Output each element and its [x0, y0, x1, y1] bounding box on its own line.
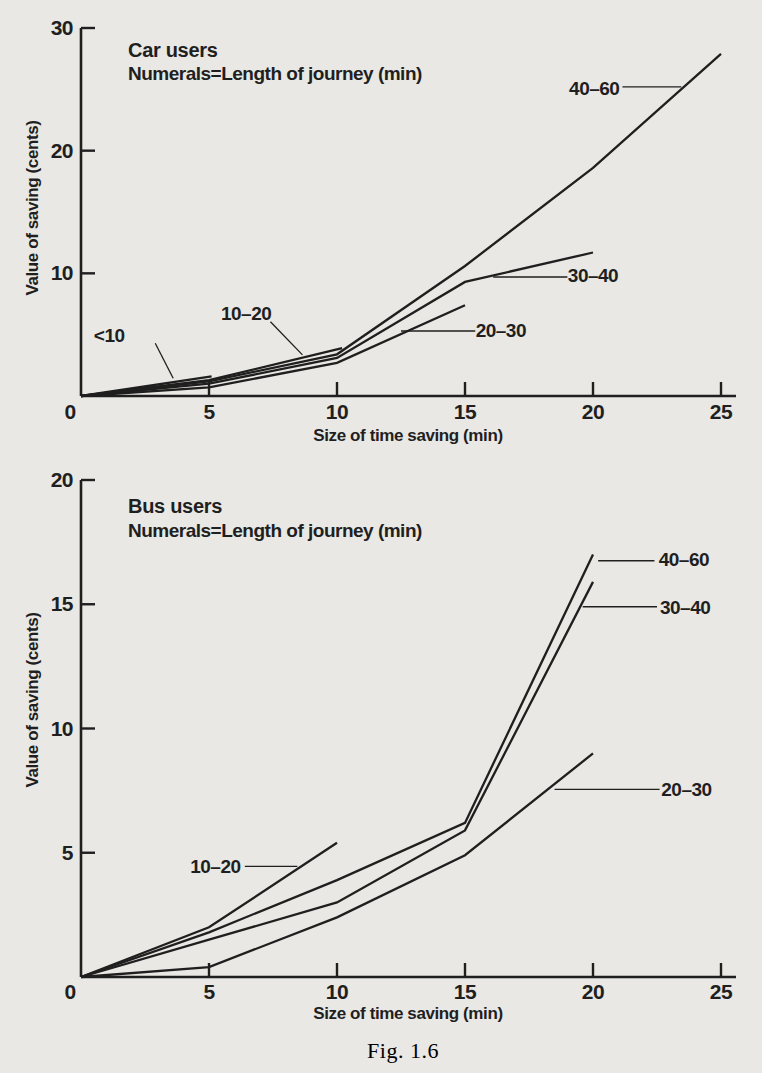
- series-line-10–20: [81, 348, 342, 396]
- bus-users-chart: 0510152025510152010–2020–3030–4040–60Bus…: [0, 455, 762, 1035]
- series-line-40–60: [81, 555, 593, 977]
- x-tick-label: 25: [710, 400, 733, 423]
- x-tick-label: 15: [454, 980, 477, 1003]
- y-axis-label: Value of saving (cents): [23, 612, 42, 787]
- y-tick-label: 20: [51, 468, 73, 491]
- curve-label: 40–60: [569, 78, 619, 99]
- x-tick-label: 0: [64, 980, 75, 1003]
- y-tick-label: 20: [51, 139, 73, 162]
- scanned-figure-page: 0510152025102030<1010–2020–3030–4040–60C…: [0, 0, 762, 1073]
- x-axis-label: Size of time saving (min): [313, 1004, 502, 1023]
- y-axis-label: Value of saving (cents): [23, 120, 42, 295]
- curve-label: 10–20: [221, 303, 271, 324]
- curve-label: <10: [94, 325, 125, 346]
- y-tick-label: 10: [51, 717, 73, 740]
- x-tick-label: 10: [326, 980, 348, 1003]
- x-axis-label: Size of time saving (min): [313, 426, 502, 445]
- x-tick-label: 10: [326, 400, 348, 423]
- car-users-chart: 0510152025102030<1010–2020–3030–4040–60C…: [0, 0, 762, 452]
- curve-label: 40–60: [659, 549, 709, 570]
- leader-line: [270, 322, 302, 355]
- chart-subtitle: Numerals=Length of journey (min): [128, 520, 422, 541]
- x-tick-label: 5: [203, 980, 215, 1003]
- y-tick-label: 15: [51, 592, 74, 615]
- y-tick-label: 30: [51, 16, 73, 39]
- x-tick-label: 15: [454, 400, 477, 423]
- x-tick-label: 5: [203, 400, 215, 423]
- x-tick-label: 0: [64, 400, 75, 423]
- curve-label: 30–40: [660, 597, 710, 618]
- y-tick-label: 10: [51, 261, 73, 284]
- curve-label: 20–30: [661, 779, 711, 800]
- series-line-20–30: [81, 753, 593, 977]
- x-tick-label: 20: [582, 980, 604, 1003]
- x-tick-label: 25: [710, 980, 733, 1003]
- curve-label: 30–40: [568, 265, 618, 286]
- chart-title: Car users: [128, 39, 218, 61]
- series-line-40–60: [81, 54, 721, 396]
- y-tick-label: 5: [62, 841, 74, 864]
- figure-caption: Fig. 1.6: [0, 1038, 762, 1064]
- chart-subtitle: Numerals=Length of journey (min): [128, 63, 422, 84]
- curve-label: 10–20: [190, 856, 240, 877]
- x-tick-label: 20: [582, 400, 604, 423]
- series-line-20–30: [81, 305, 465, 396]
- leader-line: [155, 343, 173, 378]
- curve-label: 20–30: [476, 320, 526, 341]
- chart-title: Bus users: [128, 495, 222, 517]
